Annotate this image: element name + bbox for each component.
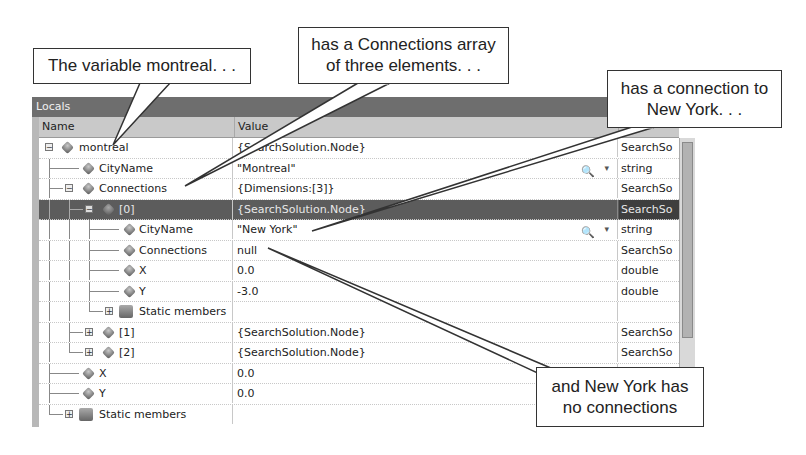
callout-text: The variable montreal. . . (48, 56, 236, 75)
callout-text: has a Connections array (299, 34, 508, 55)
callout-text: no connections (537, 397, 703, 418)
callout-text: has a connection to (608, 78, 781, 99)
callout-no-connections: and New York has no connections (536, 367, 704, 427)
callout-connections-array: has a Connections array of three element… (298, 27, 509, 84)
callout-text: of three elements. . . (299, 55, 508, 76)
callout-text: and New York has (537, 376, 703, 397)
callout-connection-new-york: has a connection to New York. . . (607, 70, 782, 128)
callout-text: New York. . . (608, 99, 781, 120)
callout-montreal: The variable montreal. . . (33, 48, 251, 84)
